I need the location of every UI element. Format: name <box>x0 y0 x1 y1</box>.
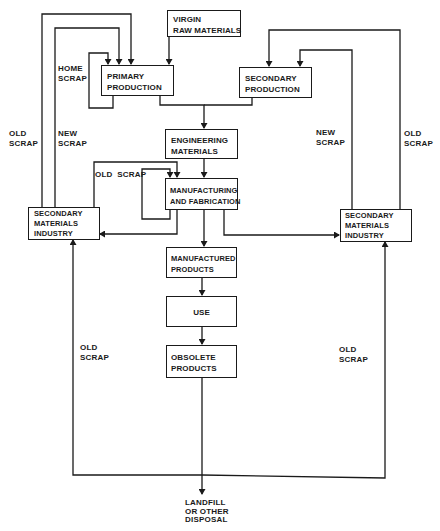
label-old-scrap-left-outer: OLD SCRAP <box>9 129 38 149</box>
node-label: INDUSTRY <box>34 229 99 239</box>
label-text: OLD <box>339 345 368 355</box>
node-secondary-materials-industry-right: SECONDARY MATERIALS INDUSTRY <box>340 209 412 242</box>
label-new-scrap-right: NEW SCRAP <box>316 128 345 148</box>
node-landfill-disposal: LANDFILL OR OTHER DISPOSAL <box>185 499 229 525</box>
node-obsolete-products: OBSOLETE PRODUCTS <box>166 345 237 378</box>
node-manufactured-products: MANUFACTURED PRODUCTS <box>166 247 237 278</box>
label-text: SCRAP <box>58 74 87 84</box>
label-text: OLD <box>80 343 109 353</box>
node-label: DISPOSAL <box>185 516 229 525</box>
node-label: PRODUCTS <box>171 363 236 374</box>
label-old-scrap-lower-right: OLD SCRAP <box>339 345 368 365</box>
edge-manufacturing-to-smi-left <box>100 209 177 234</box>
node-label: MATERIALS <box>34 219 99 229</box>
node-label: MATERIALS <box>345 221 411 231</box>
node-label: MATERIALS <box>171 146 237 157</box>
label-text: SCRAP <box>339 355 368 365</box>
node-label: MANUFACTURED <box>171 253 236 264</box>
node-label: SECONDARY <box>34 209 99 219</box>
node-label: INDUSTRY <box>345 231 411 241</box>
node-primary-production: PRIMARY PRODUCTION <box>101 65 174 96</box>
label-text: NEW <box>316 128 345 138</box>
label-old-scrap-mid: OLD SCRAP <box>95 150 146 190</box>
node-label: USE <box>167 307 236 318</box>
label-text: SCRAP <box>404 139 433 149</box>
label-text: OLD <box>9 129 38 139</box>
node-engineering-materials: ENGINEERING MATERIALS <box>165 129 238 159</box>
node-label: RAW MATERIALS <box>173 25 240 36</box>
node-label: AND FABRICATION <box>170 196 237 207</box>
node-label: PRODUCTS <box>171 264 236 275</box>
label-new-scrap-left: NEW SCRAP <box>58 129 87 149</box>
node-label: SECONDARY <box>245 73 311 84</box>
label-text: OLD <box>404 129 433 139</box>
label-text: OLD SCRAP <box>95 170 146 180</box>
node-manufacturing-fabrication: MANUFACTURING AND FABRICATION <box>165 178 238 210</box>
node-virgin-raw-materials: VIRGIN RAW MATERIALS <box>167 10 241 37</box>
edge-manufacturing-to-smi-right <box>224 209 339 235</box>
node-label: ENGINEERING <box>171 135 237 146</box>
node-label: PRIMARY <box>107 71 173 82</box>
edge-old-scrap-right-outer <box>269 30 400 209</box>
node-secondary-materials-industry-left: SECONDARY MATERIALS INDUSTRY <box>28 207 100 240</box>
node-label: VIRGIN <box>173 14 240 25</box>
label-home-scrap: HOME SCRAP <box>58 64 87 84</box>
label-text: HOME <box>58 64 87 74</box>
node-use: USE <box>166 296 237 327</box>
label-old-scrap-lower-left: OLD SCRAP <box>80 343 109 363</box>
node-label: MANUFACTURING <box>170 185 237 196</box>
edge-primary-to-engineering <box>160 95 204 128</box>
label-text: SCRAP <box>58 139 87 149</box>
node-secondary-production: SECONDARY PRODUCTION <box>239 67 312 98</box>
label-text: SCRAP <box>80 353 109 363</box>
label-text: NEW <box>58 129 87 139</box>
label-old-scrap-right-outer: OLD SCRAP <box>404 129 433 149</box>
node-label: SECONDARY <box>345 211 411 221</box>
label-text: SCRAP <box>316 138 345 148</box>
edge-secondary-to-engineering <box>204 97 252 105</box>
node-label: PRODUCTION <box>245 84 311 95</box>
node-label: PRODUCTION <box>107 82 173 93</box>
node-label: OBSOLETE <box>171 352 236 363</box>
label-text: SCRAP <box>9 139 38 149</box>
